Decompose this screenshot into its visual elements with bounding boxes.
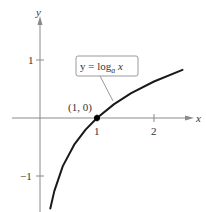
log-graph: y x 1 2 1 −1 (1, 0) y = loga x	[0, 0, 206, 212]
point-marker	[94, 115, 100, 121]
log-curve	[50, 70, 182, 209]
y-axis-label: y	[35, 6, 41, 18]
tick-label-x1: 1	[94, 125, 100, 137]
callout-pointer	[100, 76, 113, 101]
tick-label-x2: 2	[151, 125, 157, 137]
x-axis-label: x	[195, 112, 201, 124]
tick-label-yneg1: −1	[20, 170, 32, 182]
point-label: (1, 0)	[68, 101, 92, 114]
tick-label-y1: 1	[28, 54, 34, 66]
x-axis-arrow-icon	[185, 116, 194, 121]
